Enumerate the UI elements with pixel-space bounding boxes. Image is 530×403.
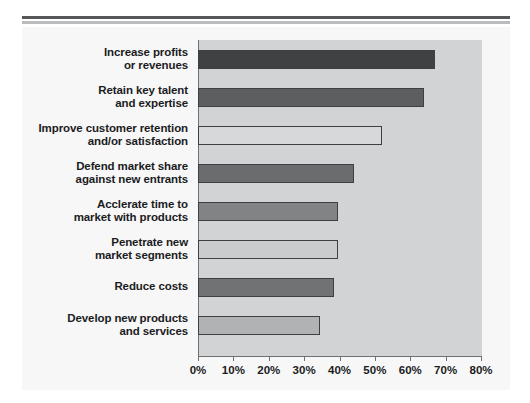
x-tick xyxy=(198,356,199,361)
category-label-line: or revenues xyxy=(22,59,188,72)
bar xyxy=(198,202,338,221)
category-label: Retain key talentand expertise xyxy=(22,84,188,110)
x-tick-label: 50% xyxy=(355,364,395,376)
category-label-line: and/or satisfaction xyxy=(22,135,188,148)
category-label: Develop new productsand services xyxy=(22,312,188,338)
category-label-line: Increase profits xyxy=(22,46,188,59)
top-rule xyxy=(22,16,510,25)
category-label-line: and services xyxy=(22,325,188,338)
category-label-line: and expertise xyxy=(22,97,188,110)
category-label-line: Retain key talent xyxy=(22,84,188,97)
category-label-line: market with products xyxy=(22,211,188,224)
x-tick-label: 10% xyxy=(213,364,253,376)
x-tick-label: 30% xyxy=(284,364,324,376)
category-label-line: market segments xyxy=(22,249,188,262)
category-label: Reduce costs xyxy=(22,280,188,293)
category-label-line: Improve customer retention xyxy=(22,122,188,135)
top-rule-thick xyxy=(22,16,510,19)
x-tick-label: 40% xyxy=(320,364,360,376)
x-tick-label: 70% xyxy=(426,364,466,376)
category-label: Acclerate time tomarket with products xyxy=(22,198,188,224)
x-tick xyxy=(410,356,411,361)
bar xyxy=(198,50,435,69)
bar-row xyxy=(198,41,481,79)
bar xyxy=(198,240,338,259)
x-tick-label: 80% xyxy=(461,364,501,376)
category-label: Penetrate newmarket segments xyxy=(22,236,188,262)
category-label: Increase profitsor revenues xyxy=(22,46,188,72)
x-tick xyxy=(481,356,482,361)
category-label-line: Defend market share xyxy=(22,160,188,173)
chart-figure: Increase profitsor revenuesRetain key ta… xyxy=(0,0,530,403)
bar-row xyxy=(198,193,481,231)
bar-row xyxy=(198,307,481,345)
bar xyxy=(198,316,320,335)
bar-row xyxy=(198,231,481,269)
category-label: Improve customer retentionand/or satisfa… xyxy=(22,122,188,148)
x-tick xyxy=(304,356,305,361)
x-tick-label: 20% xyxy=(249,364,289,376)
category-label-line: Reduce costs xyxy=(22,280,188,293)
x-tick xyxy=(269,356,270,361)
x-tick-label: 60% xyxy=(390,364,430,376)
bar-row xyxy=(198,117,481,155)
x-tick xyxy=(233,356,234,361)
bar-row xyxy=(198,155,481,193)
bar-row xyxy=(198,269,481,307)
category-axis-labels: Increase profitsor revenuesRetain key ta… xyxy=(22,40,194,356)
bar-series xyxy=(198,40,481,356)
category-label-line: Penetrate new xyxy=(22,236,188,249)
category-label-line: Acclerate time to xyxy=(22,198,188,211)
bar xyxy=(198,88,424,107)
bar xyxy=(198,126,382,145)
category-label-line: Develop new products xyxy=(22,312,188,325)
x-tick-label: 0% xyxy=(178,364,218,376)
category-label: Defend market shareagainst new entrants xyxy=(22,160,188,186)
x-tick xyxy=(446,356,447,361)
x-tick xyxy=(340,356,341,361)
category-label-line: against new entrants xyxy=(22,173,188,186)
bar xyxy=(198,278,334,297)
bar-row xyxy=(198,79,481,117)
bar xyxy=(198,164,354,183)
top-rule-thin xyxy=(22,21,510,24)
x-tick xyxy=(375,356,376,361)
